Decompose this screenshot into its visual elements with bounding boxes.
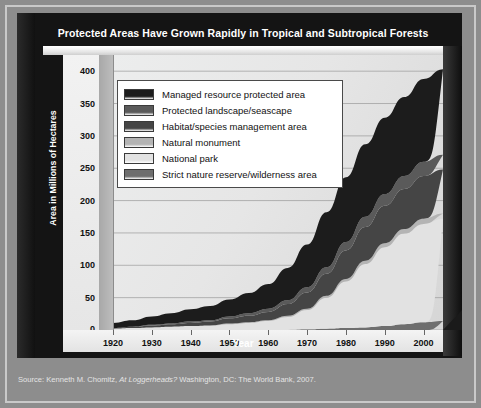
chart-legend: Managed resource protected areaProtected… (117, 80, 343, 188)
source-prefix: Source: Kenneth M. Chomitz, (18, 375, 119, 384)
y-tick-label: 250 (80, 163, 95, 173)
y-axis-title: Area in Millions of Hectares (48, 68, 58, 268)
y-tick-label: 50 (85, 293, 95, 303)
source-title: At Loggerheads? (119, 375, 177, 384)
y-axis-title-strip: Area in Millions of Hectares (43, 55, 63, 330)
legend-item-label: Managed resource protected area (162, 89, 305, 100)
chart-left-wall (99, 55, 113, 330)
legend-swatch-icon (124, 105, 154, 116)
y-tick-label: 300 (80, 131, 95, 141)
x-axis-title: Year (232, 338, 253, 349)
legend-item-label: Habitat/species management area (162, 121, 307, 132)
legend-item[interactable]: Protected landscape/seascape (124, 102, 336, 118)
y-axis-tick-labels: 501001502002503003504000 (63, 55, 99, 330)
legend-swatch-icon (124, 153, 154, 164)
y-tick-label: 100 (80, 260, 95, 270)
legend-swatch-icon (124, 89, 154, 100)
source-suffix: Washington, DC: The World Bank, 2007. (177, 375, 316, 384)
x-axis-title-band: Year (43, 330, 443, 356)
legend-item[interactable]: Strict nature reserve/wilderness area (124, 166, 336, 182)
chart-3d-box: Protected Areas Have Grown Rapidly in Tr… (17, 13, 462, 358)
legend-item-label: Protected landscape/seascape (162, 105, 292, 116)
legend-item-label: Strict nature reserve/wilderness area (162, 169, 317, 180)
legend-swatch-icon (124, 137, 154, 148)
legend-item[interactable]: Natural monument (124, 134, 336, 150)
figure-root: Protected Areas Have Grown Rapidly in Tr… (0, 0, 481, 408)
y-tick-label: 350 (80, 99, 95, 109)
legend-item[interactable]: Habitat/species management area (124, 118, 336, 134)
legend-item-label: National park (162, 153, 218, 164)
legend-item[interactable]: National park (124, 150, 336, 166)
chart-slab-left-bevel (17, 13, 35, 358)
panel-top-bevel (43, 46, 443, 55)
source-caption: Source: Kenneth M. Chomitz, At Loggerhea… (18, 375, 316, 384)
legend-swatch-icon (124, 121, 154, 132)
y-tick-label: 150 (80, 228, 95, 238)
y-tick-label: 400 (80, 66, 95, 76)
legend-item[interactable]: Managed resource protected area (124, 86, 336, 102)
chart-bottom-right-bevel (443, 310, 462, 330)
legend-item-label: Natural monument (162, 137, 240, 148)
y-tick-label: 200 (80, 196, 95, 206)
legend-swatch-icon (124, 169, 154, 180)
chart-title-bar: Protected Areas Have Grown Rapidly in Tr… (43, 22, 443, 44)
page-title: Protected Areas Have Grown Rapidly in Tr… (58, 27, 429, 39)
